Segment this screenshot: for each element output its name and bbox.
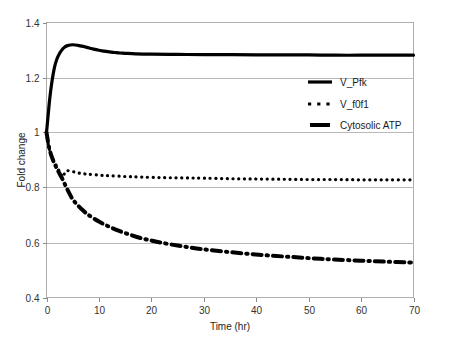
x-tick-label: 0 — [45, 305, 51, 316]
y-tick-label: 0.4 — [26, 293, 40, 304]
legend-label-v-f0f1: V_f0f1 — [340, 99, 369, 110]
y-tick-label: 1.4 — [26, 18, 40, 29]
legend-label-cytosolic-atp: Cytosolic ATP — [340, 120, 402, 131]
legend-label-v-pfk: V_Pfk — [340, 77, 368, 88]
y-tick-label: 0.6 — [26, 238, 40, 249]
y-tick-label: 1.2 — [26, 73, 40, 84]
x-axis: 010203040506070 — [45, 298, 421, 316]
x-tick-label: 60 — [356, 305, 368, 316]
x-tick-label: 50 — [304, 305, 316, 316]
plot-area-frame — [47, 23, 414, 298]
x-axis-title: Time (hr) — [210, 321, 250, 332]
x-tick-label: 10 — [94, 305, 106, 316]
y-tick-label: 0.8 — [26, 182, 40, 193]
fold-change-time-course-chart: 0.40.60.811.21.4 010203040506070 Fold ch… — [0, 0, 462, 342]
y-axis-title: Fold change — [16, 132, 27, 187]
x-tick-label: 40 — [251, 305, 263, 316]
y-axis: 0.40.60.811.21.4 — [26, 18, 47, 304]
x-tick-label: 20 — [146, 305, 158, 316]
x-tick-label: 70 — [409, 305, 421, 316]
y-tick-label: 1 — [34, 127, 40, 138]
chart-container: 0.40.60.811.21.4 010203040506070 Fold ch… — [0, 0, 462, 342]
x-tick-label: 30 — [199, 305, 211, 316]
